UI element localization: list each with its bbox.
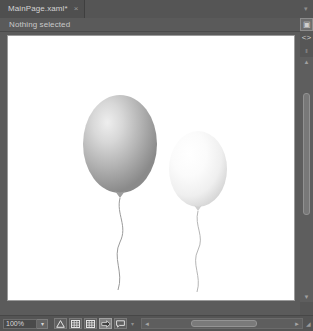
resize-grip-icon[interactable]: ◢	[303, 320, 313, 327]
balloon-white-body	[169, 131, 227, 207]
xaml-code-view-icon[interactable]: <>	[300, 31, 313, 44]
snap-to-alignment-button[interactable]	[99, 318, 112, 329]
scroll-down-icon[interactable]: ▼	[300, 292, 313, 302]
snap-to-grid-button[interactable]	[84, 318, 97, 329]
tabstrip-spacer	[85, 0, 299, 18]
annotations-button[interactable]	[114, 318, 127, 329]
chevron-down-icon[interactable]: ▾	[299, 0, 313, 18]
balloon-gray-body	[83, 95, 157, 193]
horizontal-scrollbar[interactable]: ◄ ►	[141, 318, 303, 329]
horizontal-scroll-track[interactable]	[152, 319, 292, 328]
close-icon[interactable]: ×	[72, 5, 79, 13]
arrow-snap-icon	[101, 320, 111, 328]
zoom-dropdown-button[interactable]: ▾	[37, 319, 48, 329]
split-view-icon[interactable]: ‖	[300, 44, 313, 57]
selection-status-bar: Nothing selected	[0, 18, 313, 32]
scroll-left-icon[interactable]: ◄	[142, 321, 152, 327]
vertical-scroll-thumb[interactable]	[303, 93, 310, 215]
xaml-designer-window: MainPage.xaml* × ▾ Nothing selected ▣ <>…	[0, 0, 313, 331]
statusbar: 100% ▾	[0, 315, 313, 331]
speech-bubble-icon	[116, 320, 125, 328]
balloon-gray-string	[117, 198, 123, 290]
balloons-illustration	[8, 36, 295, 301]
artboard[interactable]	[7, 35, 295, 301]
snap-to-gridlines-button[interactable]	[54, 318, 67, 329]
artboard-scene	[8, 36, 294, 300]
design-view-icon[interactable]: ▣	[300, 18, 313, 31]
scroll-right-icon[interactable]: ►	[292, 321, 302, 327]
grid-snap-icon	[86, 320, 95, 328]
selection-status-text: Nothing selected	[0, 21, 70, 29]
grid-icon	[71, 320, 80, 328]
tabstrip: MainPage.xaml* × ▾	[0, 0, 313, 19]
balloon-white[interactable]	[169, 131, 227, 292]
snap-triangle-icon	[56, 320, 65, 328]
show-grid-button[interactable]	[69, 318, 82, 329]
tab-label: MainPage.xaml*	[8, 5, 68, 13]
balloon-gray[interactable]	[83, 95, 157, 290]
statusbar-overflow-icon[interactable]: ▾	[127, 318, 137, 329]
vertical-scrollbar[interactable]: ▲ ▼	[300, 57, 313, 302]
horizontal-scroll-thumb[interactable]	[191, 320, 257, 327]
tab-mainpage-xaml[interactable]: MainPage.xaml* ×	[0, 0, 85, 18]
zoom-level-input[interactable]: 100%	[3, 319, 37, 329]
zoom-level-value: 100%	[6, 320, 24, 327]
balloon-white-string	[196, 211, 201, 292]
scroll-up-icon[interactable]: ▲	[300, 57, 313, 67]
canvas-frame	[4, 33, 296, 303]
